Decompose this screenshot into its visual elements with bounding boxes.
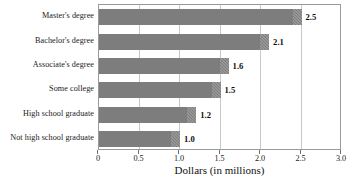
x-tick-label: 2.0 [255, 154, 265, 164]
x-axis-ticks: 00.51.01.52.02.53.0 [0, 150, 348, 164]
gridline [139, 5, 140, 149]
category-axis-labels: Master's degreeBachelor's degreeAssociat… [0, 4, 94, 150]
bar-value-label: 1.5 [225, 82, 236, 98]
category-label: Bachelor's degree [0, 36, 94, 46]
bar-value-label: 1.2 [200, 107, 211, 123]
x-tick-label: 3.0 [336, 154, 346, 164]
bar-value-label: 2.5 [306, 9, 317, 25]
bar-value-label: 2.1 [273, 34, 284, 50]
x-axis-title: Dollars (in millions) [98, 164, 341, 177]
gridline [220, 5, 221, 149]
x-tick-label: 1.5 [214, 154, 224, 164]
bar [99, 131, 180, 147]
bar [99, 82, 221, 98]
bar-value-label: 1.6 [233, 58, 244, 74]
category-label: High school graduate [0, 109, 94, 119]
x-tick-label: 1.0 [174, 154, 184, 164]
category-label: Associate's degree [0, 60, 94, 70]
x-tick-label: 0 [96, 154, 100, 164]
category-label: Not high school graduate [0, 133, 94, 143]
gridline [301, 5, 302, 149]
source-note [2, 181, 252, 188]
plot-area: 2.52.11.61.51.21.0 [98, 4, 341, 150]
bar [99, 107, 196, 123]
bar [99, 58, 229, 74]
bar-value-label: 1.0 [184, 131, 195, 147]
x-tick-label: 2.5 [295, 154, 305, 164]
bar-chart: Master's degreeBachelor's degreeAssociat… [0, 0, 348, 188]
gridline [260, 5, 261, 149]
gridline [179, 5, 180, 149]
bar [99, 9, 302, 25]
category-label: Some college [0, 84, 94, 94]
category-label: Master's degree [0, 11, 94, 21]
bar [99, 34, 269, 50]
x-tick-label: 0.5 [133, 154, 143, 164]
